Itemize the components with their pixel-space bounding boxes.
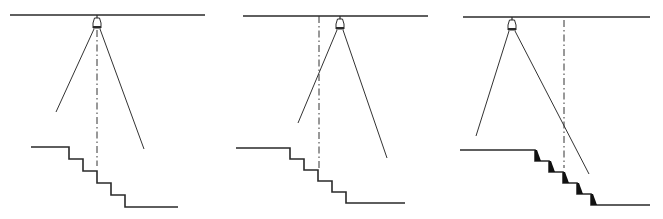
staircase (236, 148, 405, 203)
light-beam-left (476, 31, 509, 136)
light-beam-right (343, 30, 387, 158)
riser-shadow (535, 150, 541, 161)
riser-shadow (591, 194, 597, 205)
light-beam-right (100, 29, 144, 149)
luminaire-icon (336, 16, 344, 29)
staircase (31, 147, 178, 207)
light-beam-right (515, 31, 589, 174)
stair-lighting-diagram (0, 0, 663, 219)
luminaire-icon (93, 15, 101, 28)
panel-3 (460, 17, 650, 205)
light-beam-left (56, 29, 94, 112)
riser-shadow (549, 161, 555, 172)
riser-shadow (563, 172, 569, 183)
panel-2 (236, 16, 428, 203)
staircase (460, 150, 650, 205)
light-beam-left (298, 30, 337, 123)
panel-1 (10, 15, 205, 207)
diagram-canvas (0, 0, 663, 219)
luminaire-icon (508, 17, 516, 30)
riser-shadow (577, 183, 583, 194)
